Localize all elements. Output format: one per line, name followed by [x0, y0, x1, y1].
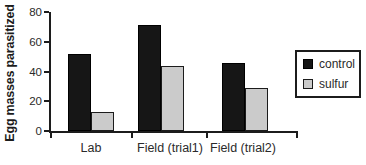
y-tick-label: 80	[14, 5, 42, 19]
x-tick-mark	[296, 133, 298, 138]
y-tick-label: 40	[14, 65, 42, 79]
x-tick-mark	[50, 133, 52, 138]
legend-label-sulfur: sulfur	[319, 77, 348, 91]
y-tick-mark	[44, 41, 49, 43]
x-category-label: Field (trial2)	[195, 141, 291, 155]
bar-chart-figure: Egg masses parasitized 020406080 LabFiel…	[0, 0, 366, 165]
bar-sulfur-lab	[91, 112, 114, 131]
bar-sulfur-field-trial2-	[245, 88, 268, 131]
x-tick-mark	[131, 133, 133, 138]
plot-area: 020406080	[49, 12, 298, 133]
legend-swatch-sulfur	[303, 79, 313, 89]
y-tick-mark	[44, 100, 49, 102]
legend: controlsulfur	[295, 50, 361, 98]
y-tick-label: 20	[14, 94, 42, 108]
legend-swatch-control	[303, 59, 313, 69]
y-tick-label: 60	[14, 35, 42, 49]
y-tick-label: 0	[14, 124, 42, 138]
bar-control-field-trial2-	[222, 63, 245, 131]
bar-control-lab	[68, 54, 91, 131]
x-tick-mark	[206, 133, 208, 138]
y-tick-mark	[44, 130, 49, 132]
y-tick-mark	[44, 71, 49, 73]
bar-control-field-trial1-	[138, 25, 161, 131]
legend-entry-control: control	[303, 57, 359, 71]
bar-sulfur-field-trial1-	[161, 66, 184, 131]
legend-label-control: control	[319, 57, 355, 71]
legend-entry-sulfur: sulfur	[303, 77, 359, 91]
y-tick-mark	[44, 11, 49, 13]
